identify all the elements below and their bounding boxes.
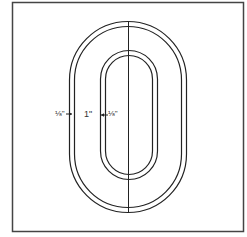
inner-seam-label: ⅛" [108,109,118,119]
zero-template-diagram [0,0,247,237]
outer-seam-arrowhead-icon [69,112,72,116]
inner-seam-arrowhead-icon [101,113,104,117]
width-label: 1" [84,109,92,119]
outer-seam-label: ⅛" [55,109,65,119]
